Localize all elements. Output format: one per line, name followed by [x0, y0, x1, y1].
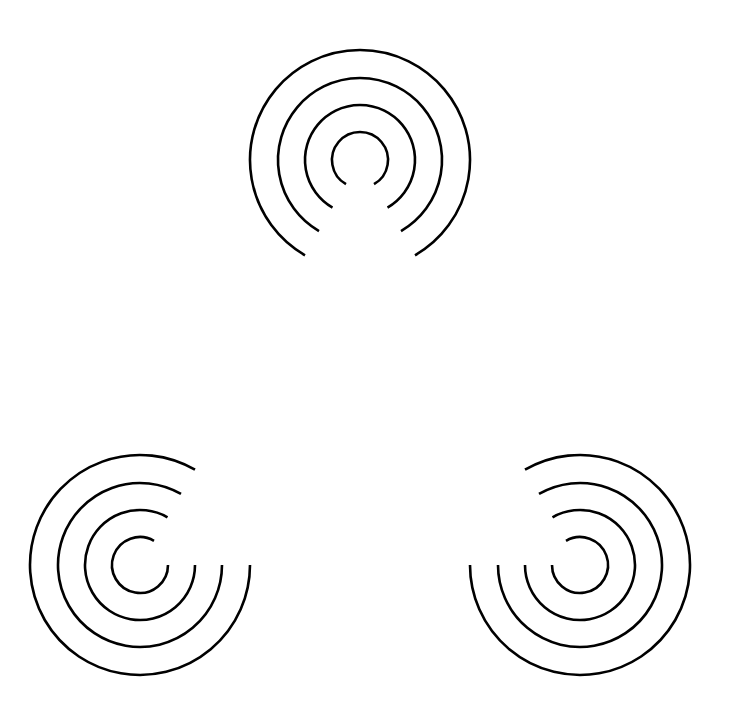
arc-ring-2	[305, 105, 415, 208]
arc-ring-3	[278, 78, 442, 231]
arc-ring-1	[112, 537, 168, 593]
arc-ring-4	[250, 50, 470, 255]
arc-ring-4	[30, 455, 250, 675]
arc-ring-1	[552, 537, 608, 593]
arc-group-bottom-right	[470, 455, 690, 675]
arc-ring-2	[85, 510, 195, 620]
arc-ring-3	[498, 483, 662, 647]
arc-ring-4	[470, 455, 690, 675]
arc-ring-2	[525, 510, 635, 620]
arc-ring-1	[332, 132, 388, 184]
arc-group-top	[250, 50, 470, 255]
illusory-triangle-figure	[0, 0, 729, 714]
arc-ring-3	[58, 483, 222, 647]
arc-group-bottom-left	[30, 455, 250, 675]
